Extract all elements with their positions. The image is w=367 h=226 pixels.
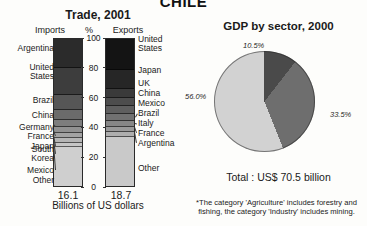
percent-axis: 100806040200 (84, 33, 104, 193)
axis-tick-label: 100 (86, 33, 101, 43)
axis-tick-mark (103, 97, 106, 98)
imports-segment (54, 95, 82, 110)
exports-label-brazil: Brazil (138, 109, 208, 118)
trade-chart-title: Trade, 2001 (18, 8, 178, 22)
axis-tick-label: 20 (86, 152, 101, 162)
axis-tick-label: 80 (86, 63, 101, 73)
imports-stacked-bar (53, 38, 83, 187)
axis-tick-mark (103, 157, 106, 158)
imports-label-france: France (0, 132, 54, 141)
imports-label-united-states: UnitedStates (0, 63, 54, 81)
gdp-footnote: *The category 'Agriculture' includes for… (186, 198, 367, 216)
axis-tick-mark (81, 38, 84, 39)
imports-segment (54, 110, 82, 120)
leader-line (135, 123, 137, 124)
imports-label-other: Other (0, 176, 54, 185)
exports-segment (106, 114, 134, 121)
axis-tick-mark (81, 127, 84, 128)
exports-segment (106, 106, 134, 113)
pie-label-industry: 33.5% (330, 110, 351, 119)
exports-label-japan: Japan (138, 66, 208, 75)
axis-tick-mark (81, 157, 84, 158)
axis-tick-mark (103, 187, 106, 188)
exports-segment (106, 39, 134, 70)
exports-segment (106, 70, 134, 88)
imports-segment (54, 68, 82, 95)
pie-label-services: 56.0% (185, 92, 206, 101)
axis-tick-mark (103, 38, 106, 39)
imports-segment (54, 147, 82, 186)
imports-column-header: Imports (22, 25, 78, 35)
imports-segment (54, 39, 82, 68)
exports-label-uk: UK (138, 79, 208, 88)
imports-segment (54, 120, 82, 127)
imports-label-mexico: Mexico (0, 166, 54, 175)
axis-tick-label: 40 (86, 122, 101, 132)
axis-tick-mark (103, 127, 106, 128)
gdp-chart-title: GDP by sector, 2000 (190, 20, 367, 32)
imports-label-brazil: Brazil (0, 96, 54, 105)
exports-label-argentina: Argentina (138, 139, 208, 148)
exports-label-france: France (138, 129, 208, 138)
axis-tick-mark (103, 67, 106, 68)
axis-tick-mark (81, 97, 84, 98)
gdp-total-label: Total : US$ 70.5 billion (190, 171, 367, 183)
axis-tick-mark (81, 67, 84, 68)
trade-units-label: Billions of US dollars (18, 200, 178, 211)
exports-segment (106, 89, 134, 98)
exports-label-italy: Italy (138, 119, 208, 128)
exports-segment (106, 98, 134, 107)
imports-label-south-korea: SouthKorea (0, 145, 54, 163)
exports-segment (106, 137, 134, 186)
axis-tick-mark (81, 187, 84, 188)
infographic-root: CHILE Trade, 2001 Imports % Exports 1008… (0, 0, 367, 226)
imports-label-china: China (0, 111, 54, 120)
gdp-pie-chart (214, 51, 315, 152)
exports-label-united-states: UnitedStates (138, 35, 208, 53)
axis-tick-label: 60 (86, 93, 101, 103)
imports-label-argentina: Argentina (0, 44, 54, 53)
pie-label-agriculture: 10.5% (243, 41, 264, 50)
exports-stacked-bar (105, 38, 135, 187)
